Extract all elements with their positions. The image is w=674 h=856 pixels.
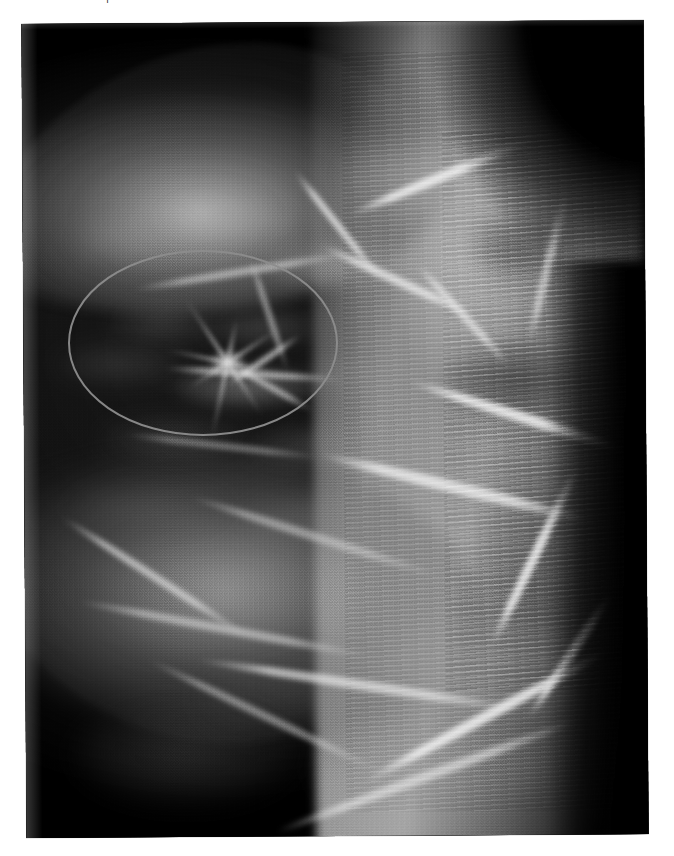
film-plate: [22, 20, 649, 838]
film-grain: [22, 20, 649, 838]
mammogram-figure: [22, 20, 649, 838]
page-canvas: |: [0, 0, 674, 856]
cut-text-fragment: |: [103, 0, 112, 3]
